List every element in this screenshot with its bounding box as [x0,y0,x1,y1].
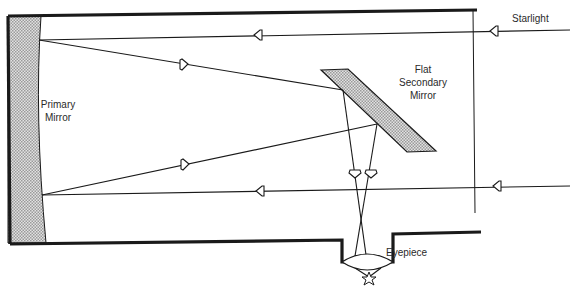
primary-mirror [8,16,46,243]
tube-aperture-line [473,10,475,213]
arrow-left-icon [254,30,262,40]
arrow-left-icon [493,181,501,191]
reflected-ray-bottom [42,124,377,195]
starlight-label: Starlight [512,12,549,25]
arrow-left-icon [490,26,498,36]
tube-top-wall [8,10,477,16]
secondary-mirror-label-line1: Flat [393,63,453,76]
reflected-ray-top [39,40,343,90]
arrow-right-icon [180,59,188,70]
primary-mirror-label: Primary Mirror [34,98,82,124]
incoming-ray-bottom [42,186,570,195]
primary-mirror-label-line2: Mirror [34,111,82,124]
eyepiece-label: Eyepiece [386,246,427,259]
ray-arrows [180,26,501,196]
secondary-mirror-label-line2: Secondary [393,76,453,89]
secondary-mirror-label: Flat Secondary Mirror [393,63,453,102]
arrow-right-icon [181,159,189,170]
tube-left-wall [8,16,10,244]
telescope-diagram [0,0,578,290]
arrow-left-icon [256,186,264,196]
primary-mirror-label-line1: Primary [34,98,82,111]
secondary-mirror-label-line3: Mirror [393,89,453,102]
arrow-down-icon [349,170,361,178]
arrow-down-icon [365,170,377,178]
